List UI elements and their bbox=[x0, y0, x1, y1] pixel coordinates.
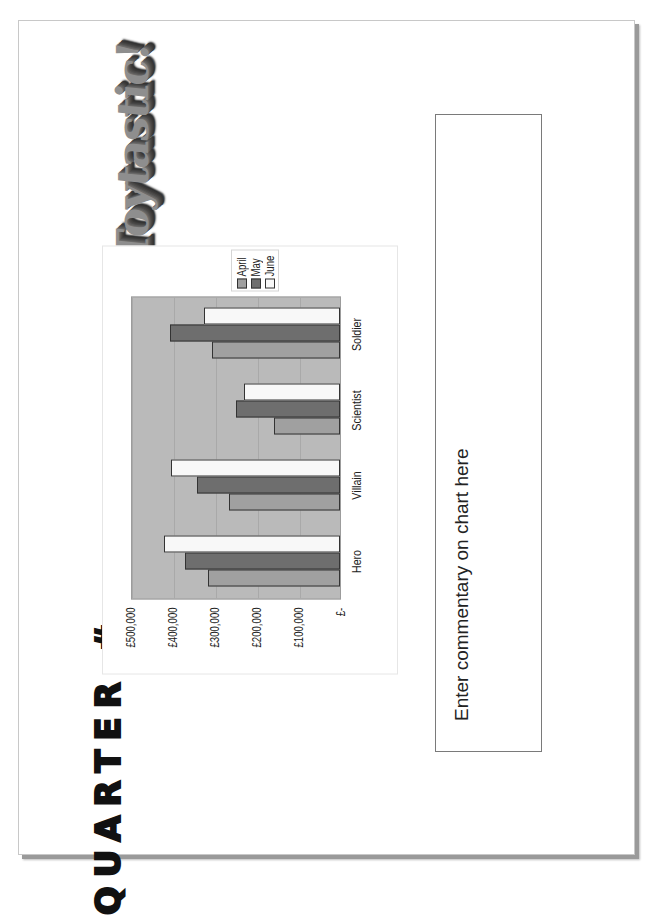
legend-item-june: June bbox=[263, 252, 277, 288]
x-tick-label: Hero bbox=[349, 550, 364, 573]
legend-item-may: May bbox=[249, 252, 263, 288]
bar-scientist-april bbox=[274, 417, 340, 434]
y-tick-label: £400,000 bbox=[166, 607, 180, 647]
bar-hero-june bbox=[164, 535, 340, 552]
gridline bbox=[174, 297, 175, 598]
y-tick-label: £300,000 bbox=[208, 607, 222, 647]
bar-hero-april bbox=[208, 569, 340, 586]
commentary-placeholder: Enter commentary on chart here bbox=[451, 449, 472, 721]
y-tick-label: £- bbox=[334, 607, 348, 616]
legend-label: April bbox=[235, 257, 249, 276]
commentary-text[interactable]: Enter commentary on chart here bbox=[478, 133, 500, 733]
sales-chart: £-£100,000£200,000£300,000£400,000£500,0… bbox=[102, 245, 398, 674]
quarter-title: QUARTER # bbox=[78, 690, 138, 840]
bar-hero-may bbox=[185, 552, 340, 569]
legend-label: June bbox=[263, 255, 277, 276]
chart-legend: AprilMayJune bbox=[231, 249, 279, 291]
bar-soldier-june bbox=[204, 307, 340, 324]
legend-label: May bbox=[249, 258, 263, 276]
bar-soldier-april bbox=[212, 341, 340, 358]
y-tick-label: £200,000 bbox=[250, 607, 264, 647]
logo-text: Toytastic! bbox=[107, 41, 158, 266]
x-tick-label: Villain bbox=[349, 471, 364, 499]
bar-villain-june bbox=[171, 459, 340, 476]
legend-swatch bbox=[265, 278, 275, 288]
bar-villain-may bbox=[197, 476, 340, 493]
toytastic-logo: Toytastic! bbox=[82, 78, 182, 228]
chart-area: £-£100,000£200,000£300,000£400,000£500,0… bbox=[102, 245, 398, 674]
bar-villain-april bbox=[229, 493, 340, 510]
commentary-box[interactable]: Enter commentary on chart here bbox=[435, 114, 542, 752]
legend-swatch bbox=[251, 278, 261, 288]
gridline bbox=[132, 297, 133, 598]
bar-scientist-june bbox=[244, 383, 340, 400]
x-tick-label: Scientist bbox=[349, 389, 364, 429]
legend-item-april: April bbox=[235, 252, 249, 288]
y-tick-label: £500,000 bbox=[124, 607, 138, 647]
x-tick-label: Soldier bbox=[349, 317, 364, 350]
plot-area bbox=[131, 296, 341, 599]
bar-soldier-may bbox=[170, 324, 340, 341]
bar-scientist-may bbox=[236, 400, 340, 417]
y-tick-label: £100,000 bbox=[292, 607, 306, 647]
legend-swatch bbox=[237, 278, 247, 288]
